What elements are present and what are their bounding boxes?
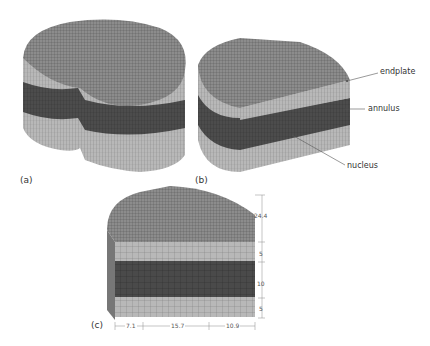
panel-c-mesh <box>107 186 255 320</box>
label-nucleus: nucleus <box>347 161 378 170</box>
dim-height-disc: 10 <box>257 280 265 287</box>
figure-canvas <box>0 0 430 346</box>
panel-label-b: (b) <box>195 175 208 185</box>
label-annulus: annulus <box>368 104 400 113</box>
panel-a-mesh <box>23 20 186 172</box>
dim-width-2: 15.7 <box>170 322 185 329</box>
dim-width-1: 7.1 <box>125 322 137 329</box>
dim-height-endplate-upper: 5 <box>259 250 263 257</box>
dim-height-top: 24.4 <box>254 212 267 219</box>
dim-width-3: 10.9 <box>225 322 240 329</box>
panel-label-c: (c) <box>91 320 103 330</box>
panel-b-mesh <box>198 38 350 172</box>
panel-label-a: (a) <box>20 175 33 185</box>
label-endplate: endplate <box>380 67 415 76</box>
dim-height-endplate-lower: 5 <box>259 305 263 312</box>
